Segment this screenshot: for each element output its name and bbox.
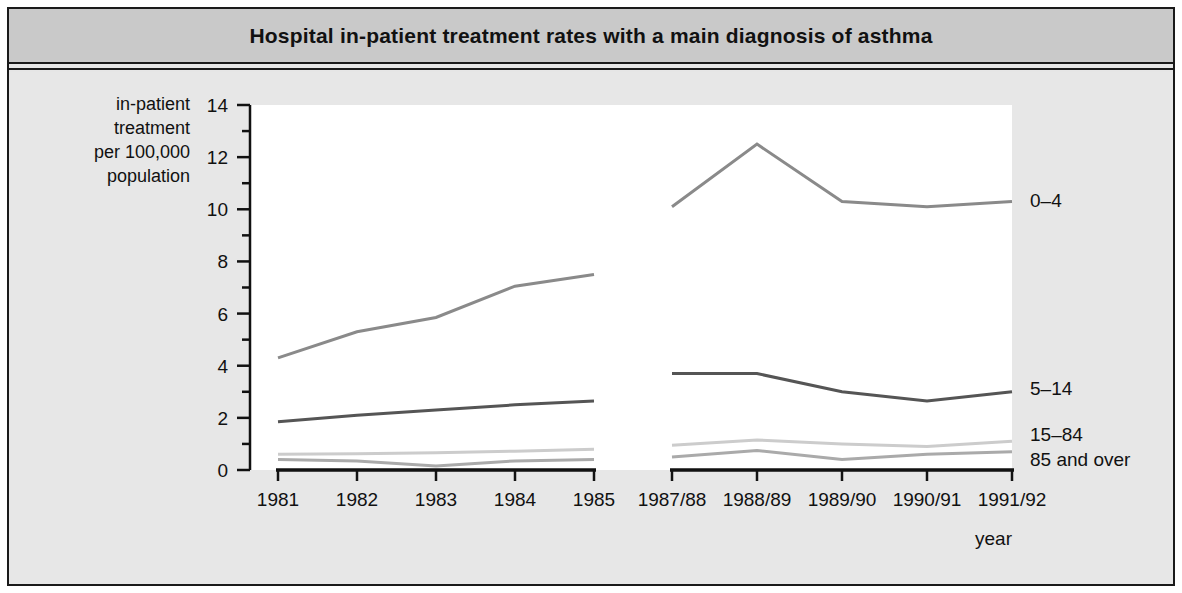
- title-separator: [9, 66, 1173, 70]
- figure-title-band: Hospital in-patient treatment rates with…: [9, 9, 1173, 64]
- page-title: Hospital in-patient treatment rates with…: [249, 24, 932, 48]
- chart-body: [9, 72, 1173, 584]
- figure-page: Hospital in-patient treatment rates with…: [0, 0, 1182, 593]
